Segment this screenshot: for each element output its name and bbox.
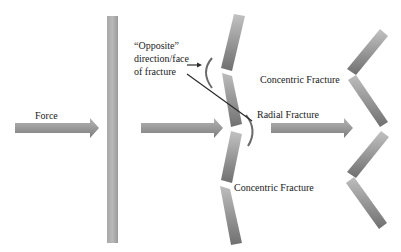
glass-fracture-diagram: Force “Opposite” direction/face of fract… [0,0,401,252]
diagram-graphics [0,0,401,252]
opposite-leader-arrowhead [197,63,202,68]
concentric-fractured-pane [346,29,389,229]
transition-arrow-1 [141,118,223,138]
force-label: Force [35,110,58,121]
opposite-face-label-line2: direction/face [134,53,189,64]
opposite-face-label-line3: of fracture [134,66,176,77]
concentric-fracture-label-top: Concentric Fracture [260,74,340,85]
bent-glass-pane [220,14,245,245]
radial-leader-line [187,74,252,121]
radial-fracture-label: Radial Fracture [257,109,319,120]
opposite-face-label-line1: “Opposite” [134,40,179,51]
transition-arrow-2 [271,118,353,138]
opposite-face-arc [206,58,212,88]
intact-glass-pane [107,16,118,243]
concentric-fracture-label-bottom: Concentric Fracture [234,182,314,193]
force-arrow [15,118,99,138]
